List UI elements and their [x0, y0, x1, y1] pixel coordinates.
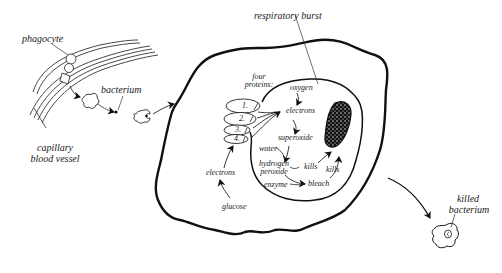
label-capillary: capillary — [30, 143, 80, 153]
label-superoxide: superoxide — [278, 134, 313, 142]
label-enzyme: enzyme — [264, 181, 288, 189]
phagocyte-cell-membrane — [156, 40, 388, 234]
respiratory-burst-pointer — [295, 15, 318, 84]
label-water: water — [259, 145, 277, 153]
label-glucose: glucose — [222, 203, 246, 211]
label-protein-2: 2. — [239, 115, 245, 123]
label-killed-bacterium: bacterium — [444, 205, 494, 215]
label-oxygen: oxygen — [290, 84, 313, 92]
phagocyte-pointer — [52, 44, 68, 55]
label-protein-3: 3. — [235, 126, 241, 134]
phagocyte-blob-icon — [82, 93, 99, 108]
respiratory-burst-diagram: phagocyte bacterium capillary blood vess… — [0, 0, 502, 273]
label-proteins: proteins: — [240, 81, 278, 89]
label-electrons-inner: electrons — [286, 107, 315, 115]
diagram-drawing — [0, 0, 502, 273]
label-electrons-outer: electrons — [206, 169, 235, 177]
label-protein-1: 1. — [242, 102, 248, 110]
label-bacterium: bacterium — [101, 85, 142, 95]
label-blood-vessel: blood vessel — [24, 154, 86, 164]
label-respiratory-burst: respiratory burst — [254, 11, 322, 21]
label-kills-1: kills — [304, 163, 317, 171]
label-killed: killed — [448, 194, 488, 204]
label-protein-4: 4. — [234, 135, 240, 143]
engulfed-bacterium — [325, 102, 351, 147]
label-bleach: bleach — [308, 180, 329, 188]
bacterium-dot — [114, 110, 117, 113]
label-phagocyte: phagocyte — [22, 34, 63, 44]
label-kills-2: kills — [326, 166, 339, 174]
capillary-blood-vessel — [30, 40, 158, 123]
label-peroxide: peroxide — [256, 168, 292, 176]
